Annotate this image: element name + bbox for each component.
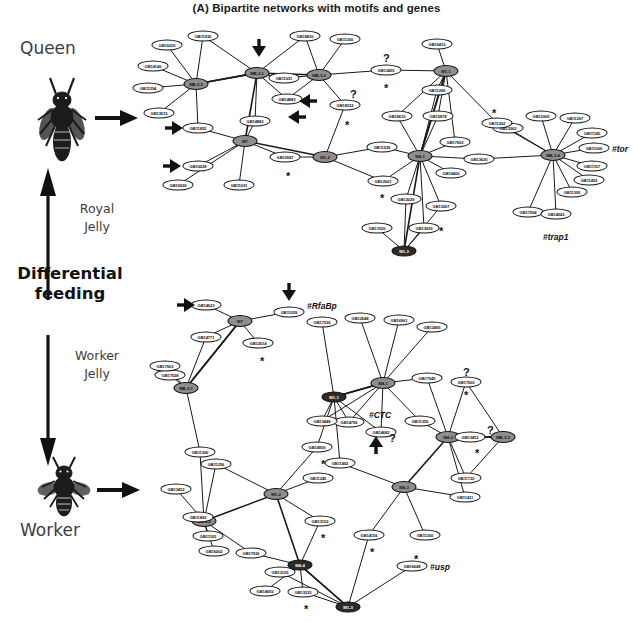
- motif-node[interactable]: MB-3-3: [307, 69, 332, 81]
- gene-node[interactable]: GB17650: [362, 223, 393, 234]
- gene-node[interactable]: GB11267: [560, 113, 591, 124]
- gene-node[interactable]: GB19400: [436, 168, 467, 179]
- gene-node[interactable]: GB13152: [305, 516, 336, 527]
- gene-node[interactable]: GB11462: [325, 458, 356, 469]
- gene-node[interactable]: GB17236: [307, 317, 338, 328]
- motif-node[interactable]: M1-1: [434, 65, 459, 77]
- gene-node[interactable]: GB17936: [236, 548, 267, 559]
- gene-node[interactable]: GB14543: [541, 209, 572, 220]
- gene-node[interactable]: GB11200: [410, 530, 441, 541]
- motif-node[interactable]: MB-3-3: [491, 431, 516, 443]
- gene-node[interactable]: GB18332: [330, 100, 361, 111]
- question-mark-symbol: ?: [389, 432, 396, 444]
- gene-node[interactable]: GB11852: [183, 123, 214, 134]
- gene-node[interactable]: GB16961: [384, 315, 415, 326]
- gene-node[interactable]: GB11256: [201, 459, 232, 470]
- gene-node[interactable]: GB11059: [274, 307, 305, 318]
- motif-node[interactable]: M1-1: [322, 392, 347, 403]
- gene-node[interactable]: GB13455: [371, 65, 402, 76]
- gene-node[interactable]: GB14140: [138, 61, 169, 72]
- star-symbol: *: [304, 606, 308, 612]
- gene-node[interactable]: GB11105: [193, 531, 224, 542]
- gene-node[interactable]: GB13929: [409, 223, 440, 234]
- gene-node[interactable]: GB13515: [144, 108, 175, 119]
- gene-node[interactable]: GB10028: [183, 161, 214, 172]
- gene-node[interactable]: GB13452: [455, 432, 486, 443]
- gene-node[interactable]: GB11031: [224, 180, 255, 191]
- gene-node[interactable]: GB14959: [302, 442, 333, 453]
- gene-node[interactable]: GB13620: [464, 154, 495, 165]
- gene-node[interactable]: GB15878: [423, 111, 454, 122]
- gene-node[interactable]: GB11245: [303, 473, 334, 484]
- gene-node[interactable]: GB11269: [422, 85, 453, 96]
- gene-node[interactable]: GB11403: [574, 175, 605, 186]
- gene-node[interactable]: GB11000: [579, 143, 610, 154]
- gene-node[interactable]: GB18830: [290, 31, 321, 42]
- motif-node[interactable]: M1-3: [392, 246, 417, 257]
- gene-node[interactable]: GB11360: [185, 447, 216, 458]
- motif-node[interactable]: MB-3-1: [245, 67, 270, 79]
- pointer-arrow-right: [164, 118, 184, 138]
- pointer-arrow-down: [279, 282, 299, 302]
- motif-node[interactable]: M4-3: [392, 481, 417, 493]
- motif-node[interactable]: MB-3-4: [541, 149, 566, 161]
- gene-node[interactable]: GB12014: [243, 338, 274, 349]
- star-symbol: *: [286, 173, 290, 179]
- gene-node[interactable]: GB17902: [451, 377, 482, 388]
- gene-node[interactable]: GB16002: [199, 546, 230, 557]
- gene-node[interactable]: GB11262: [482, 118, 513, 129]
- star-symbol: *: [414, 556, 418, 562]
- gene-node[interactable]: GB11200: [330, 34, 361, 45]
- gene-node[interactable]: GB10587: [270, 152, 301, 163]
- gene-node[interactable]: GB14883: [240, 116, 271, 127]
- motif-node[interactable]: M1-3: [336, 602, 361, 613]
- gene-node[interactable]: GB11145: [577, 128, 608, 139]
- motif-node[interactable]: M1-2: [264, 488, 289, 500]
- motif-node[interactable]: MB-3-2: [184, 78, 209, 90]
- gene-node[interactable]: GB11893: [183, 512, 214, 523]
- gene-node[interactable]: GB12365: [526, 111, 557, 122]
- gene-node[interactable]: GB14156: [354, 530, 385, 541]
- motif-node[interactable]: M1-2: [313, 151, 338, 163]
- motif-node[interactable]: M4-1: [408, 150, 433, 162]
- gene-annotation: #trap1: [543, 232, 569, 242]
- gene-node[interactable]: GB11411: [450, 492, 481, 503]
- gene-node[interactable]: GB13335: [288, 587, 319, 598]
- gene-node[interactable]: GB17945: [412, 373, 443, 384]
- motif-node[interactable]: MB-3-1: [174, 382, 199, 394]
- gene-node[interactable]: GB16410: [422, 39, 453, 50]
- gene-node[interactable]: GB11393: [557, 187, 588, 198]
- gene-node[interactable]: GB17903: [150, 361, 181, 372]
- gene-node[interactable]: GB16936: [163, 180, 194, 191]
- star-symbol: *: [345, 122, 349, 128]
- gene-node[interactable]: GB11529: [367, 142, 398, 153]
- pointer-arrow-down: [249, 38, 269, 58]
- gene-node[interactable]: GB18610: [382, 111, 413, 122]
- gene-node[interactable]: GB12495: [417, 322, 448, 333]
- gene-node[interactable]: GB14693: [250, 586, 281, 597]
- gene-node[interactable]: GB13029: [391, 194, 422, 205]
- star-symbol: *: [321, 535, 325, 541]
- gene-node[interactable]: GB11157: [577, 161, 608, 172]
- gene-node[interactable]: GB12648: [345, 313, 376, 324]
- motif-node[interactable]: M7: [233, 135, 258, 147]
- gene-node[interactable]: GB14771: [191, 332, 222, 343]
- star-symbol: *: [260, 358, 264, 364]
- gene-node[interactable]: GB11722: [451, 473, 482, 484]
- gene-node[interactable]: GB13448: [307, 416, 338, 427]
- gene-node[interactable]: GB11021: [269, 73, 300, 84]
- gene-node[interactable]: GB13267: [426, 201, 457, 212]
- gene-node[interactable]: GB16648: [397, 561, 428, 572]
- gene-node[interactable]: GB14796: [334, 417, 365, 428]
- motif-node[interactable]: M7: [228, 315, 253, 327]
- gene-node[interactable]: GB16205: [152, 40, 183, 51]
- gene-node[interactable]: GB17902: [440, 137, 471, 148]
- gene-node[interactable]: GB12001: [368, 176, 399, 187]
- gene-node[interactable]: GB11930: [188, 31, 219, 42]
- gene-node[interactable]: GB11294: [133, 83, 164, 94]
- motif-node[interactable]: M4-1: [371, 377, 396, 389]
- gene-node[interactable]: GB11359: [405, 416, 436, 427]
- gene-node[interactable]: GB13452: [161, 484, 192, 495]
- gene-node[interactable]: GB17994: [513, 207, 544, 218]
- gene-node[interactable]: GB13105: [265, 567, 296, 578]
